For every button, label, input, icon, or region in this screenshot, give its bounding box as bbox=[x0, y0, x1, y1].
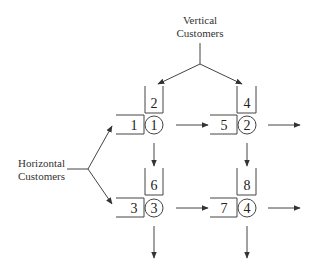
horizontal-queue-number: 5 bbox=[221, 118, 228, 133]
vertical-branch-arrow-left bbox=[158, 64, 200, 84]
horizontal-customers-label-line2: Customers bbox=[18, 170, 65, 182]
horizontal-branch-arrow-down bbox=[88, 169, 112, 204]
horizontal-branch-arrow-up bbox=[88, 126, 112, 169]
horizontal-queue-number: 7 bbox=[221, 201, 228, 216]
vertical-queue-number: 8 bbox=[244, 178, 251, 193]
node-server-2: 4 5 2 bbox=[210, 86, 256, 134]
server-number: 4 bbox=[244, 201, 251, 216]
vertical-queue-number: 4 bbox=[244, 96, 251, 111]
horizontal-queue-number: 1 bbox=[131, 118, 138, 133]
node-server-4: 8 7 4 bbox=[210, 168, 256, 217]
horizontal-customers-label-line1: Horizontal bbox=[18, 157, 65, 169]
server-number: 2 bbox=[244, 118, 251, 133]
vertical-queue-number: 2 bbox=[151, 96, 158, 111]
vertical-queue-number: 6 bbox=[151, 178, 158, 193]
node-server-1: 2 1 1 bbox=[116, 86, 163, 134]
server-number: 3 bbox=[151, 201, 158, 216]
horizontal-queue-number: 3 bbox=[131, 201, 138, 216]
vertical-customers-label-line1: Vertical bbox=[183, 14, 217, 26]
vertical-branch-arrow-right bbox=[200, 64, 242, 84]
node-server-3: 6 3 3 bbox=[116, 168, 163, 217]
vertical-customers-label-line2: Customers bbox=[176, 27, 223, 39]
server-number: 1 bbox=[151, 118, 158, 133]
tandem-queue-network-diagram: Vertical Customers Horizontal Customers … bbox=[0, 0, 316, 275]
